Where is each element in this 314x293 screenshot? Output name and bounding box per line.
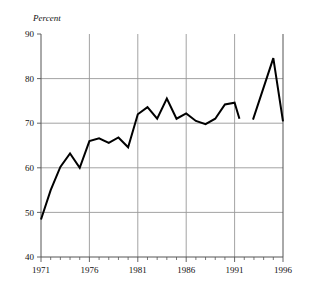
- line-chart: 197119761981198619911996 405060708090 Pe…: [0, 0, 314, 293]
- data-series-group: [41, 58, 283, 219]
- x-tick-labels-group: 197119761981198619911996: [32, 265, 293, 275]
- chart-container: 197119761981198619911996 405060708090 Pe…: [0, 0, 314, 293]
- y-tick-label: 40: [25, 252, 35, 262]
- gridlines-group: [41, 34, 283, 257]
- data-line: [253, 58, 283, 121]
- x-tick-label: 1991: [226, 265, 244, 275]
- data-line: [41, 99, 239, 220]
- x-tick-label: 1971: [32, 265, 50, 275]
- y-tick-label: 90: [25, 29, 35, 39]
- y-tick-label: 80: [25, 74, 35, 84]
- x-tick-label: 1981: [129, 265, 147, 275]
- y-tick-label: 70: [25, 118, 35, 128]
- axes-group: [41, 34, 283, 257]
- y-tick-label: 50: [25, 208, 35, 218]
- x-tick-label: 1996: [274, 265, 293, 275]
- y-tick-label: 60: [25, 163, 35, 173]
- x-major-ticks-group: [41, 257, 283, 262]
- x-tick-label: 1986: [177, 265, 196, 275]
- y-tick-labels-group: 405060708090: [25, 29, 35, 262]
- y-ticks-group: [37, 34, 41, 257]
- y-axis-title: Percent: [32, 13, 61, 23]
- x-tick-label: 1976: [80, 265, 99, 275]
